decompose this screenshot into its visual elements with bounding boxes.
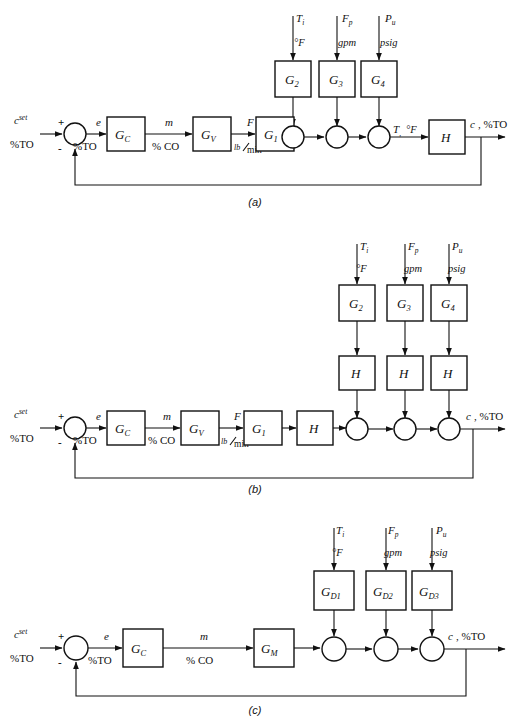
error-summing-junction-c — [64, 636, 88, 660]
minus-sign-c: - — [58, 656, 62, 668]
summing-junction-b-2 — [394, 418, 416, 440]
controller-output-unit-c: % CO — [186, 654, 213, 666]
block-h-b-3: H — [431, 356, 467, 390]
diagram-a-canvas: Ti °F Fp gpm Pu psig G2 G3 G4 — [0, 0, 510, 220]
disturbance-label-b-3: Pu psig — [447, 240, 466, 274]
svg-text:c: c — [470, 118, 475, 130]
summing-junction-a-2 — [326, 126, 348, 148]
svg-text:T,: T, — [393, 123, 401, 138]
block-g1-b: G1 — [244, 411, 282, 445]
svg-text:lb: lb — [221, 437, 227, 446]
block-h-forward-b: H — [297, 411, 333, 445]
svg-text:Fp: Fp — [341, 12, 353, 27]
svg-text:%TO: %TO — [10, 652, 34, 664]
svg-text:Pu: Pu — [435, 524, 447, 539]
flow-label-a: F — [246, 116, 254, 128]
block-diagram-b: Ti °F Fp gpm Pu psig G2 G3 G4 — [0, 228, 510, 510]
disturbance-unit-2: gpm — [338, 37, 357, 48]
error-label-b: e — [96, 410, 101, 422]
plus-sign-a: + — [58, 116, 64, 128]
svg-text:Pu: Pu — [451, 240, 463, 255]
setpoint-unit-a: %TO — [10, 138, 34, 150]
disturbance-label-2: Fp gpm — [338, 12, 357, 48]
block-h-a: H — [429, 120, 465, 154]
svg-text:H: H — [442, 366, 453, 381]
block-gc-a: GC — [107, 117, 145, 151]
diagram-c-canvas: Ti °F Fp gpm Pu psig GD1 GD2 GD3 — [0, 512, 510, 728]
caption-b: (b) — [0, 483, 510, 495]
svg-text:°F: °F — [406, 124, 417, 135]
block-g4-b: G4 — [431, 285, 467, 321]
block-g4: G4 — [361, 61, 397, 97]
disturbance-label-1: Ti °F — [294, 12, 305, 48]
svg-text:cset: cset — [14, 113, 28, 126]
summing-junction-b-1 — [346, 418, 368, 440]
process-output-label-a: T, °F — [393, 123, 417, 138]
svg-text:Ti: Ti — [296, 12, 304, 27]
plus-sign-b: + — [58, 410, 64, 422]
svg-text:, %TO: , %TO — [474, 410, 503, 422]
svg-text:%TO: %TO — [10, 432, 34, 444]
svg-text:H: H — [308, 421, 319, 436]
diagram-b-canvas: Ti °F Fp gpm Pu psig G2 G3 G4 — [0, 228, 510, 510]
disturbance-label-3: Pu psig — [379, 12, 398, 48]
svg-text:psig: psig — [447, 263, 466, 274]
svg-text:gpm: gpm — [384, 547, 403, 558]
svg-text:°F: °F — [356, 263, 367, 274]
error-label-a: e — [96, 116, 101, 128]
summing-junction-c-1 — [322, 637, 346, 661]
summing-junction-a-1 — [282, 126, 304, 148]
caption-a: (a) — [0, 196, 510, 208]
setpoint-label-a: cset %TO — [10, 113, 34, 150]
caption-c: (c) — [0, 704, 510, 716]
error-unit-b: %TO — [73, 434, 97, 446]
setpoint-label-c: cset %TO — [10, 627, 34, 664]
minus-sign-a: - — [58, 142, 62, 154]
error-label-c: e — [104, 630, 109, 642]
block-h-b-1: H — [339, 356, 375, 390]
svg-text:Ti: Ti — [360, 240, 368, 255]
block-diagram-a: Ti °F Fp gpm Pu psig G2 G3 G4 — [0, 0, 510, 220]
minus-sign-b: - — [58, 436, 62, 448]
disturbance-label-c-2: Fp gpm — [384, 524, 403, 558]
block-diagram-c: Ti °F Fp gpm Pu psig GD1 GD2 GD3 — [0, 512, 510, 728]
block-gc-c: GC — [123, 629, 163, 667]
disturbance-label-b-1: Ti °F — [356, 240, 368, 274]
block-gv-a: GV — [193, 117, 231, 151]
block-g3-b: G3 — [387, 285, 423, 321]
flow-label-b: F — [233, 410, 241, 422]
block-gm-c: GM — [254, 629, 294, 667]
svg-text:cset: cset — [14, 407, 28, 420]
block-g2: G2 — [275, 61, 311, 97]
svg-text:lb: lb — [234, 143, 240, 152]
svg-text:c: c — [448, 630, 453, 642]
svg-text:Ti: Ti — [336, 524, 344, 539]
block-gv-b: GV — [181, 411, 219, 445]
block-gd2-c: GD2 — [366, 571, 406, 610]
output-label-c: c , %TO — [448, 630, 485, 642]
output-label-b: c , %TO — [466, 410, 503, 422]
block-g2-b: G2 — [339, 285, 375, 321]
controller-output-label-c: m — [200, 630, 208, 642]
controller-output-unit-a: % CO — [152, 140, 179, 152]
block-h-b-2: H — [387, 356, 423, 390]
svg-text:Pu: Pu — [384, 12, 396, 27]
svg-text:gpm: gpm — [404, 263, 423, 274]
summing-junction-b-3 — [438, 418, 460, 440]
disturbance-unit-3: psig — [379, 37, 398, 48]
disturbance-unit-1: °F — [294, 37, 305, 48]
disturbance-label-b-2: Fp gpm — [404, 240, 423, 274]
setpoint-label-b: cset %TO — [10, 407, 34, 444]
svg-text:H: H — [350, 366, 361, 381]
summing-junction-c-2 — [374, 637, 398, 661]
block-g3: G3 — [319, 61, 355, 97]
output-label-a: c , %TO — [470, 118, 507, 130]
svg-text:H: H — [398, 366, 409, 381]
svg-text:, %TO: , %TO — [456, 630, 485, 642]
svg-text:cset: cset — [14, 627, 28, 640]
controller-output-label-b: m — [163, 410, 171, 422]
svg-text:, %TO: , %TO — [478, 118, 507, 130]
svg-text:Fp: Fp — [407, 240, 419, 255]
svg-text:c: c — [466, 410, 471, 422]
svg-text:H: H — [440, 130, 451, 145]
